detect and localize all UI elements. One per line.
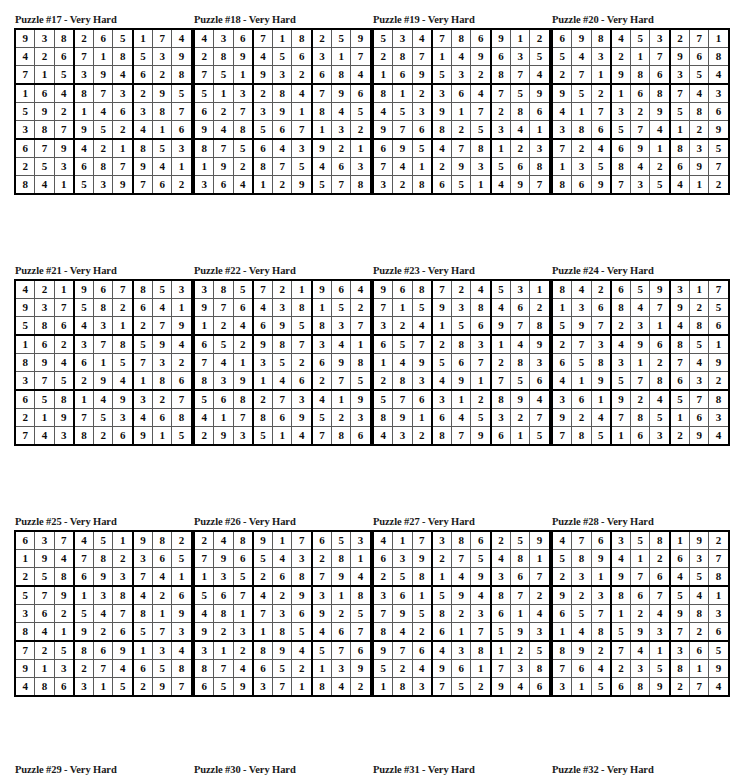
sudoku-row: 841926573 <box>15 623 192 642</box>
sudoku-cell: 6 <box>153 550 172 568</box>
sudoku-cell: 6 <box>351 641 371 660</box>
sudoku-cell: 4 <box>709 678 729 697</box>
sudoku-cell: 4 <box>670 568 690 587</box>
sudoku-cell: 7 <box>214 299 233 317</box>
sudoku-cell: 6 <box>452 354 471 372</box>
sudoku-cell: 7 <box>332 641 351 660</box>
sudoku-row: 658149327 <box>15 390 192 409</box>
sudoku-cell: 5 <box>491 280 511 299</box>
sudoku-cell: 1 <box>471 372 491 391</box>
sudoku-cell: 3 <box>530 139 550 158</box>
sudoku-cell: 8 <box>611 299 631 317</box>
sudoku-cell: 8 <box>432 427 452 446</box>
puzzle-title: Puzzle #31 - Very Hard <box>372 764 551 776</box>
sudoku-cell: 6 <box>292 48 312 66</box>
sudoku-cell: 5 <box>471 550 491 568</box>
sudoku-cell: 6 <box>54 48 74 66</box>
sudoku-cell: 9 <box>611 390 631 409</box>
sudoku-cell: 5 <box>214 678 233 697</box>
puzzle-block: Puzzle #22 - Very Hard385721964976438152… <box>193 265 372 446</box>
sudoku-row: 324156978 <box>373 317 550 336</box>
sudoku-cell: 7 <box>233 409 253 427</box>
sudoku-cell: 4 <box>351 568 371 587</box>
sudoku-cell: 9 <box>172 317 192 336</box>
sudoku-cell: 6 <box>572 660 591 678</box>
sudoku-cell: 7 <box>351 48 371 66</box>
sudoku-cell: 6 <box>511 158 530 176</box>
sudoku-cell: 4 <box>611 335 631 354</box>
sudoku-cell: 8 <box>432 605 452 623</box>
sudoku-cell: 7 <box>650 299 670 317</box>
sudoku-cell: 9 <box>214 158 233 176</box>
sudoku-cell: 5 <box>552 48 572 66</box>
sudoku-cell: 3 <box>373 586 393 605</box>
sudoku-cell: 6 <box>709 317 729 336</box>
sudoku-cell: 9 <box>113 176 133 195</box>
sudoku-cell: 8 <box>332 66 351 85</box>
sudoku-cell: 2 <box>172 531 192 550</box>
sudoku-cell: 2 <box>94 427 113 446</box>
sudoku-cell: 9 <box>709 121 729 140</box>
sudoku-cell: 4 <box>511 121 530 140</box>
puzzle-block: Puzzle #28 - Very Hard476358192589412637… <box>551 516 730 697</box>
sudoku-grid: 4763581925894126372319764589238675416571… <box>551 530 730 697</box>
sudoku-cell: 9 <box>552 84 572 103</box>
sudoku-cell: 5 <box>172 427 192 446</box>
sudoku-cell: 3 <box>54 660 74 678</box>
sudoku-cell: 2 <box>373 48 393 66</box>
sudoku-cell: 6 <box>133 660 153 678</box>
sudoku-cell: 2 <box>233 335 253 354</box>
sudoku-cell: 8 <box>172 66 192 85</box>
sudoku-cell: 6 <box>172 372 192 391</box>
sudoku-cell: 3 <box>650 427 670 446</box>
sudoku-cell: 9 <box>15 660 35 678</box>
sudoku-cell: 6 <box>332 158 351 176</box>
sudoku-row: 785163294 <box>552 427 729 446</box>
sudoku-cell: 6 <box>631 427 650 446</box>
sudoku-cell: 9 <box>54 139 74 158</box>
sudoku-cell: 3 <box>631 660 650 678</box>
sudoku-cell: 5 <box>552 317 572 336</box>
sudoku-cell: 8 <box>530 660 550 678</box>
sudoku-cell: 9 <box>670 48 690 66</box>
sudoku-cell: 6 <box>412 641 432 660</box>
sudoku-cell: 1 <box>214 409 233 427</box>
sudoku-cell: 6 <box>233 29 253 48</box>
sudoku-cell: 2 <box>670 29 690 48</box>
sudoku-cell: 7 <box>591 605 611 623</box>
sudoku-cell: 7 <box>233 586 253 605</box>
sudoku-cell: 5 <box>491 623 511 642</box>
sudoku-cell: 8 <box>292 568 312 587</box>
sudoku-cell: 2 <box>15 568 35 587</box>
sudoku-row: 258693741 <box>15 568 192 587</box>
sudoku-cell: 3 <box>373 317 393 336</box>
sudoku-cell: 1 <box>611 605 631 623</box>
sudoku-cell: 4 <box>94 390 113 409</box>
sudoku-cell: 5 <box>332 29 351 48</box>
sudoku-cell: 6 <box>253 139 273 158</box>
sudoku-cell: 8 <box>233 121 253 140</box>
sudoku-cell: 7 <box>233 103 253 121</box>
sudoku-cell: 4 <box>253 586 273 605</box>
sudoku-cell: 1 <box>572 678 591 697</box>
sudoku-cell: 4 <box>54 84 74 103</box>
sudoku-cell: 7 <box>113 280 133 299</box>
sudoku-cell: 9 <box>491 317 511 336</box>
sudoku-cell: 2 <box>572 586 591 605</box>
sudoku-cell: 5 <box>332 531 351 550</box>
sudoku-cell: 7 <box>292 335 312 354</box>
sudoku-cell: 5 <box>452 176 471 195</box>
puzzle-title: Puzzle #25 - Very Hard <box>14 516 193 528</box>
puzzle-block: Puzzle #32 - Very Hard <box>551 764 717 776</box>
sudoku-cell: 1 <box>74 390 94 409</box>
sudoku-cell: 4 <box>292 641 312 660</box>
sudoku-cell: 3 <box>312 586 332 605</box>
sudoku-cell: 1 <box>194 317 214 336</box>
sudoku-cell: 6 <box>54 317 74 336</box>
sudoku-cell: 9 <box>312 139 332 158</box>
sudoku-row: 419578632 <box>552 372 729 391</box>
sudoku-cell: 1 <box>54 280 74 299</box>
sudoku-cell: 7 <box>530 409 550 427</box>
sudoku-cell: 1 <box>312 660 332 678</box>
sudoku-cell: 6 <box>452 660 471 678</box>
